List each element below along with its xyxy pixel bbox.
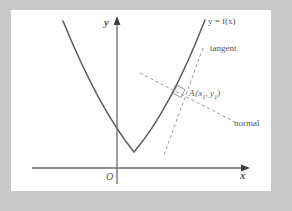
normal-line (140, 73, 235, 122)
y-axis-arrowhead (114, 16, 121, 25)
x-axis-label: x (240, 170, 246, 181)
origin-label: O (106, 172, 113, 182)
point-close-paren: ) (217, 88, 220, 98)
y-axis-label: y (104, 17, 109, 28)
normal-label: normal (234, 119, 260, 128)
point-a-label: A (x1, y1) (189, 89, 220, 100)
figure-container: y x O y = f(x) tangent normal A (x1, y1) (0, 0, 292, 211)
tangent-line (164, 48, 203, 155)
tangent-label: tangent (210, 44, 237, 53)
graph-canvas (0, 0, 292, 211)
function-curve (63, 20, 205, 152)
function-label: y = f(x) (208, 17, 236, 26)
